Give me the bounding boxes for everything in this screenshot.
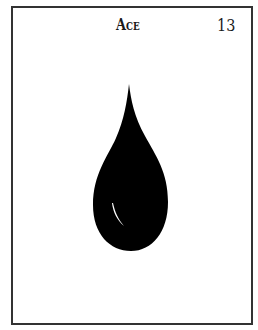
drop-shape bbox=[93, 84, 168, 251]
water-drop-icon bbox=[0, 0, 258, 330]
